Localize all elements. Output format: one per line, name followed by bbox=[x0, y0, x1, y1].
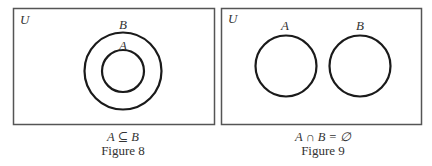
set-a-circle bbox=[256, 36, 317, 97]
set-b-label: B bbox=[119, 18, 127, 31]
universe-label: U bbox=[228, 12, 237, 25]
figure-number: Figure 8 bbox=[23, 144, 223, 159]
figure-8: U B A A ⊆ B Figure 8 bbox=[0, 0, 216, 166]
set-b-label: B bbox=[356, 19, 364, 32]
relation-text: A ∩ B = ∅ bbox=[223, 130, 423, 144]
figure-9: U A B A ∩ B = ∅ Figure 9 bbox=[216, 0, 432, 166]
figure-number: Figure 9 bbox=[223, 144, 423, 159]
figure-9-caption: A ∩ B = ∅ Figure 9 bbox=[223, 130, 423, 159]
set-a-circle bbox=[102, 50, 144, 92]
set-a-label: A bbox=[119, 39, 127, 52]
set-a-label: A bbox=[281, 19, 289, 32]
set-b-circle bbox=[330, 36, 391, 97]
universe-box bbox=[14, 9, 215, 125]
relation-text: A ⊆ B bbox=[23, 130, 223, 144]
universe-label: U bbox=[20, 13, 29, 26]
figure-8-caption: A ⊆ B Figure 8 bbox=[23, 130, 223, 159]
